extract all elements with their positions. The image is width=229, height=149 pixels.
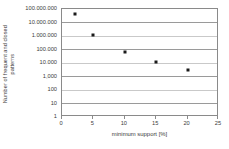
- x-axis-tick-label: 5: [91, 119, 94, 127]
- y-axis-tick-labels: 100.000.00010.000.0001.000.000100.00010.…: [16, 8, 59, 116]
- gridline: [62, 63, 217, 64]
- data-point: [186, 69, 189, 72]
- x-axis-tick-label: 10: [121, 119, 127, 127]
- chart-figure: Number of frequent and closed patterns 1…: [0, 0, 229, 149]
- gridline: [62, 36, 217, 37]
- y-axis-tick-label: 10.000: [40, 59, 57, 65]
- y-axis-tick-label: 10: [51, 100, 57, 106]
- gridline: [62, 76, 217, 77]
- y-axis-tick-label: 100: [48, 86, 58, 92]
- x-axis-tick-labels: 0510152025: [61, 119, 218, 128]
- y-axis-tick-label: 100.000: [36, 46, 57, 52]
- x-axis-tick-label: 0: [59, 119, 62, 127]
- y-axis-tick-label: 1: [54, 113, 57, 119]
- gridline: [62, 103, 217, 104]
- data-point: [155, 61, 158, 64]
- data-point: [123, 50, 126, 53]
- x-axis-tick-label: 20: [183, 119, 189, 127]
- x-axis-tick-label: 15: [152, 119, 158, 127]
- x-axis-title: minimum support [%]: [61, 130, 218, 138]
- plot-area: [61, 8, 218, 116]
- y-axis-title-line-1: Number of frequent and closed: [2, 25, 9, 103]
- gridline: [62, 90, 217, 91]
- y-axis-tick-label: 100.000.000: [25, 5, 57, 11]
- data-point: [73, 13, 76, 16]
- x-axis-tick-label: 25: [215, 119, 221, 127]
- data-point: [92, 33, 95, 36]
- gridline: [62, 22, 217, 23]
- y-axis-tick-label: 1,000: [43, 73, 57, 79]
- y-axis-tick-label: 1.000.000: [32, 32, 57, 38]
- y-axis-tick-label: 10.000.000: [29, 19, 57, 25]
- gridline: [62, 49, 217, 50]
